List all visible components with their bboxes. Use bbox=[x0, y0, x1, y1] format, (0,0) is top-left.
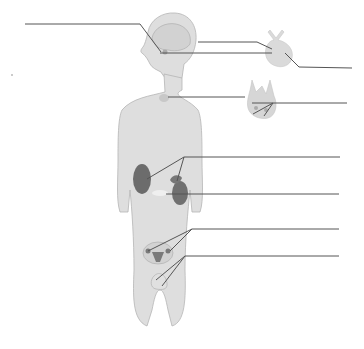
stray-dot bbox=[11, 74, 13, 76]
pituitary-gland-icon bbox=[163, 50, 168, 55]
thyroid-inset bbox=[247, 80, 276, 119]
label-line-pituitary-inset[interactable] bbox=[198, 42, 272, 49]
endocrine-diagram bbox=[0, 0, 364, 349]
thyroid-gland-icon bbox=[159, 94, 169, 102]
label-line-pituitary-inset-lower[interactable] bbox=[285, 53, 352, 68]
label-line-hypothalamus[interactable] bbox=[25, 24, 161, 52]
